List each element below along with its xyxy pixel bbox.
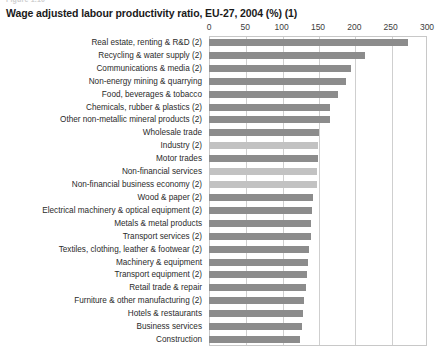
- category-label: Food, beverages & tobacco: [102, 90, 202, 99]
- bars-layer: [209, 36, 427, 346]
- bar: [209, 259, 308, 266]
- bar: [209, 220, 311, 227]
- bar: [209, 65, 351, 72]
- category-label: Motor trades: [156, 154, 202, 163]
- bar: [209, 284, 306, 291]
- category-label: Metals & metal products: [114, 219, 202, 228]
- bar: [209, 168, 317, 175]
- category-label: Wood & paper (2): [138, 193, 202, 202]
- x-tick-label-0: 0: [207, 22, 212, 32]
- x-tick-label-100: 100: [275, 22, 289, 32]
- bar: [209, 194, 313, 201]
- y-axis-category-labels: Real estate, renting & R&D (2)Recycling …: [0, 36, 206, 346]
- category-label: Machinery & equipment: [116, 258, 202, 267]
- category-label: Transport equipment (2): [114, 270, 202, 279]
- page-title: Wage adjusted labour productivity ratio,…: [6, 7, 297, 19]
- bar: [209, 181, 317, 188]
- category-label: Chemicals, rubber & plastics (2): [86, 103, 202, 112]
- x-tick-label-250: 250: [384, 22, 398, 32]
- bar: [209, 207, 312, 214]
- bar: [209, 271, 307, 278]
- category-label: Retail trade & repair: [129, 283, 202, 292]
- category-label: Textiles, clothing, leather & footwear (…: [59, 245, 202, 254]
- x-tick-label-50: 50: [241, 22, 250, 32]
- category-label: Wholesale trade: [143, 128, 202, 137]
- bar: [209, 39, 408, 46]
- x-tick-label-150: 150: [311, 22, 325, 32]
- bar: [209, 336, 300, 343]
- category-label: Construction: [156, 335, 202, 344]
- bar: [209, 142, 318, 149]
- bar: [209, 297, 304, 304]
- category-label: Non-financial services: [122, 167, 202, 176]
- category-label: Non-financial business economy (2): [72, 180, 202, 189]
- bar: [209, 91, 338, 98]
- category-label: Non-energy mining & quarrying: [89, 77, 202, 86]
- category-label: Communications & media (2): [96, 64, 202, 73]
- bar: [209, 116, 330, 123]
- category-label: Furniture & other manufacturing (2): [74, 296, 202, 305]
- figure-caption-stub: Figure 1.10: [6, 0, 171, 3]
- category-label: Business services: [136, 322, 202, 331]
- bar: [209, 52, 365, 59]
- x-tick-label-200: 200: [347, 22, 361, 32]
- bar: [209, 310, 303, 317]
- bar: [209, 246, 309, 253]
- category-label: Recycling & water supply (2): [98, 51, 202, 60]
- category-label: Industry (2): [161, 141, 202, 150]
- bar: [209, 155, 318, 162]
- bar: [209, 233, 311, 240]
- category-label: Hotels & restaurants: [128, 309, 202, 318]
- bar: [209, 104, 330, 111]
- bar: [209, 129, 319, 136]
- chart-container: 050100150200250300 Real estate, renting …: [0, 22, 442, 352]
- x-tick-label-300: 300: [420, 22, 434, 32]
- bar: [209, 78, 346, 85]
- category-label: Real estate, renting & R&D (2): [91, 38, 202, 47]
- figure-caption-text: Figure 1.10: [6, 0, 45, 3]
- category-label: Electrical machinery & optical equipment…: [42, 206, 202, 215]
- category-label: Other non-metallic mineral products (2): [60, 115, 202, 124]
- bar: [209, 323, 302, 330]
- x-axis-tick-labels: 050100150200250300: [0, 22, 442, 36]
- category-label: Transport services (2): [123, 232, 202, 241]
